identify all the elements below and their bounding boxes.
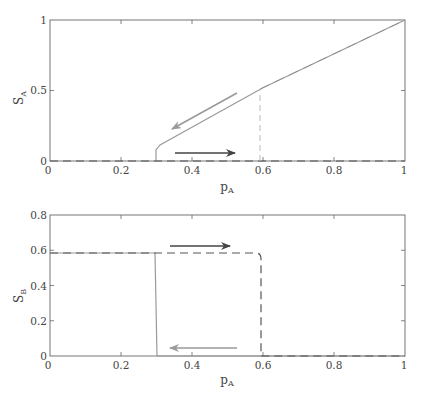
top-solid-series bbox=[156, 20, 405, 161]
bottom-x-axis-label: pA bbox=[220, 373, 234, 388]
top-ytick-1: 0.5 bbox=[30, 84, 47, 96]
top-xtick-3: 0.6 bbox=[255, 164, 272, 176]
bottom-y-axis-label: SB bbox=[12, 289, 28, 303]
top-xtick-1: 0.2 bbox=[113, 164, 130, 176]
bottom-ytick-2: 0.4 bbox=[30, 280, 47, 292]
top-x-ticks bbox=[121, 20, 334, 161]
top-plot: 0 0.2 0.4 0.6 0.8 1 0 0.5 1 SA pA bbox=[12, 14, 407, 195]
bottom-dashed-series bbox=[50, 253, 405, 356]
top-ytick-0: 0 bbox=[40, 155, 47, 167]
bottom-xtick-2: 0.4 bbox=[184, 359, 201, 371]
top-xtick-2: 0.4 bbox=[184, 164, 201, 176]
top-x-axis-label: pA bbox=[220, 180, 234, 195]
bottom-xtick-4: 0.8 bbox=[326, 359, 343, 371]
top-xtick-5: 1 bbox=[401, 164, 408, 176]
bottom-ytick-3: 0.6 bbox=[30, 244, 47, 256]
bottom-solid-series bbox=[50, 253, 405, 356]
bottom-plot: 0 0.2 0.4 0.6 0.8 1 0 0.2 0.4 0.6 0.8 SB… bbox=[12, 209, 407, 388]
bottom-ytick-4: 0.8 bbox=[30, 209, 47, 221]
bottom-xtick-3: 0.6 bbox=[255, 359, 272, 371]
top-arrow-down-left-icon bbox=[172, 93, 237, 129]
bottom-ytick-0: 0 bbox=[40, 350, 47, 362]
bottom-xtick-5: 1 bbox=[401, 359, 408, 371]
bottom-ytick-1: 0.2 bbox=[30, 315, 47, 327]
figure: 0 0.2 0.4 0.6 0.8 1 0 0.5 1 SA pA bbox=[0, 0, 422, 396]
bottom-x-ticks bbox=[121, 215, 334, 356]
top-xtick-4: 0.8 bbox=[326, 164, 343, 176]
bottom-y-ticks bbox=[50, 250, 405, 321]
top-dashed-upper bbox=[260, 20, 405, 89]
bottom-plot-frame bbox=[50, 215, 405, 356]
bottom-xtick-1: 0.2 bbox=[113, 359, 130, 371]
top-plot-frame bbox=[50, 20, 405, 161]
top-y-axis-label: SA bbox=[12, 91, 28, 105]
top-ytick-2: 1 bbox=[40, 14, 47, 26]
